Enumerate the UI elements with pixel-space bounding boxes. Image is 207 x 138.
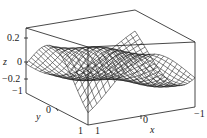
x-axis-label: x <box>150 125 154 135</box>
z-tick-neg-1: −1 <box>12 86 23 96</box>
box-top-left-front <box>26 28 88 47</box>
z-tick-0: 0 <box>17 57 22 67</box>
z-tick-neg-0.2: −0.2 <box>2 74 20 84</box>
y-tick-0: 0 <box>46 105 51 115</box>
surface-plot <box>0 0 207 138</box>
x-tick-1: 1 <box>95 126 100 136</box>
y-tick-1: 1 <box>78 126 83 136</box>
x-tick-neg-1: −1 <box>194 109 205 119</box>
z-axis-label: z <box>3 57 7 67</box>
z-tick-0.2: 0.2 <box>7 33 20 43</box>
box-top-right-front <box>88 42 195 47</box>
x-axis-line <box>88 107 195 125</box>
y-axis-label: y <box>36 112 40 122</box>
box-top-back-edge <box>26 10 195 42</box>
x-tick-0: 0 <box>143 115 148 125</box>
